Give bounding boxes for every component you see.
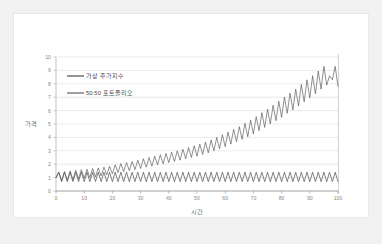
line-chart: 012345678910 0102030405060708090100 가상 주… <box>14 14 370 219</box>
y-tick-label: 0 <box>48 188 51 194</box>
x-tick-label: 40 <box>166 195 172 201</box>
x-tick-label: 80 <box>279 195 285 201</box>
series-line <box>56 172 338 181</box>
chart-card: 012345678910 0102030405060708090100 가상 주… <box>13 13 369 218</box>
y-axis-title: 가격 <box>25 120 37 128</box>
x-tick-label: 10 <box>81 195 87 201</box>
screenshot-root: 012345678910 0102030405060708090100 가상 주… <box>0 0 382 244</box>
x-axis-tick-labels: 0102030405060708090100 <box>55 191 343 201</box>
y-tick-label: 3 <box>48 148 51 154</box>
y-tick-label: 2 <box>48 161 51 167</box>
y-tick-label: 1 <box>48 175 51 181</box>
chart-legend: 가상 주가지수50:50 포트폴리오 <box>67 72 133 97</box>
x-tick-label: 60 <box>222 195 228 201</box>
legend-label[interactable]: 50:50 포트폴리오 <box>86 89 133 97</box>
x-tick-label: 100 <box>334 195 343 201</box>
y-tick-label: 5 <box>48 121 51 127</box>
x-axis-title: 시간 <box>191 208 203 215</box>
x-tick-label: 0 <box>55 195 58 201</box>
x-tick-label: 50 <box>194 195 200 201</box>
y-tick-label: 4 <box>48 134 51 140</box>
x-tick-label: 20 <box>110 195 116 201</box>
x-tick-label: 90 <box>307 195 313 201</box>
y-tick-label: 9 <box>48 67 51 73</box>
y-axis-tick-labels: 012345678910 <box>45 54 56 194</box>
x-tick-label: 30 <box>138 195 144 201</box>
y-tick-label: 10 <box>45 54 51 60</box>
y-tick-label: 7 <box>48 94 51 100</box>
y-tick-label: 6 <box>48 108 51 114</box>
y-tick-label: 8 <box>48 81 51 87</box>
x-tick-label: 70 <box>251 195 257 201</box>
legend-label[interactable]: 가상 주가지수 <box>86 72 124 80</box>
